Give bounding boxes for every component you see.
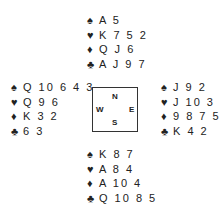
compass-south: S (112, 118, 117, 127)
compass-west: W (96, 105, 104, 114)
diamond-icon: ♦ (87, 42, 99, 57)
diamond-icon: ♦ (161, 109, 173, 124)
east-hand: ♠J 9 2 ♥J 10 3 ♦9 8 7 5 ♣K 4 2 (161, 80, 221, 138)
south-hearts: ♥A 8 4 (87, 162, 157, 177)
west-hand: ♠Q 10 6 4 3 ♥Q 9 6 ♦K 3 2 ♣6 3 (11, 80, 94, 138)
east-diamonds: ♦9 8 7 5 (161, 109, 221, 124)
west-clubs: ♣6 3 (11, 124, 94, 139)
compass-box: N W E S (92, 87, 138, 132)
spade-icon: ♠ (11, 80, 23, 95)
west-diamonds: ♦K 3 2 (11, 109, 94, 124)
club-icon: ♣ (161, 124, 173, 139)
south-spades: ♠K 8 7 (87, 147, 157, 162)
heart-icon: ♥ (161, 95, 173, 110)
north-diamonds: ♦Q J 6 (87, 42, 148, 57)
south-diamonds: ♦A 10 4 (87, 176, 157, 191)
south-clubs: ♣Q 10 8 5 (87, 191, 157, 206)
heart-icon: ♥ (87, 28, 99, 43)
west-hearts: ♥Q 9 6 (11, 95, 94, 110)
north-spades: ♠A 5 (87, 13, 148, 28)
east-clubs: ♣K 4 2 (161, 124, 221, 139)
spade-icon: ♠ (87, 147, 99, 162)
heart-icon: ♥ (87, 162, 99, 177)
heart-icon: ♥ (11, 95, 23, 110)
compass-north: N (112, 92, 118, 101)
south-hand: ♠K 8 7 ♥A 8 4 ♦A 10 4 ♣Q 10 8 5 (87, 147, 157, 205)
east-spades: ♠J 9 2 (161, 80, 221, 95)
club-icon: ♣ (87, 191, 99, 206)
north-hearts: ♥K 7 5 2 (87, 28, 148, 43)
north-hand: ♠A 5 ♥K 7 5 2 ♦Q J 6 ♣A J 9 7 (87, 13, 148, 71)
diamond-icon: ♦ (87, 176, 99, 191)
spade-icon: ♠ (161, 80, 173, 95)
spade-icon: ♠ (87, 13, 99, 28)
north-clubs: ♣A J 9 7 (87, 57, 148, 72)
east-hearts: ♥J 10 3 (161, 95, 221, 110)
diamond-icon: ♦ (11, 109, 23, 124)
compass-east: E (129, 105, 134, 114)
west-spades: ♠Q 10 6 4 3 (11, 80, 94, 95)
club-icon: ♣ (11, 124, 23, 139)
club-icon: ♣ (87, 57, 99, 72)
